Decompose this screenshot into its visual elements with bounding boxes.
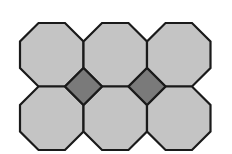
octagon-group: [20, 23, 211, 150]
octagon-square-tiling: [0, 0, 232, 154]
